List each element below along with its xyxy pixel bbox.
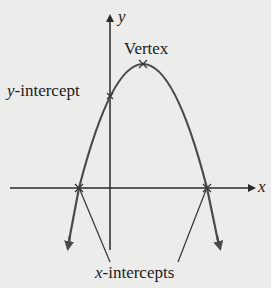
x-intercepts-suffix: -intercepts	[103, 263, 175, 282]
y-axis-label: y	[118, 8, 126, 25]
leader-line-left	[80, 190, 110, 262]
left-tail-arrow-icon	[68, 236, 70, 248]
y-intercept-var: y	[7, 81, 15, 100]
parabola-curve	[68, 64, 219, 246]
vertex-label: Vertex	[124, 40, 168, 57]
x-intercepts-label: x-intercepts	[95, 264, 174, 281]
x-intercepts-var: x	[95, 263, 103, 282]
parabola-diagram: y x Vertex y-intercept x-intercepts	[0, 0, 271, 288]
x-axis-label: x	[258, 178, 266, 195]
point-markers	[75, 60, 211, 192]
y-intercept-suffix: -intercept	[15, 81, 80, 100]
y-intercept-label: y-intercept	[7, 82, 80, 99]
leader-line-right	[178, 190, 206, 262]
right-tail-arrow-icon	[217, 236, 220, 248]
